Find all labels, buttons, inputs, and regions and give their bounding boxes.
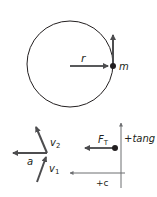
free-body-diagram: FT +tang +c [70, 123, 155, 188]
tang-axis-label: +tang [124, 133, 155, 144]
object-point [112, 145, 118, 151]
mass-label: m [119, 61, 129, 72]
radius-label: r [81, 52, 87, 65]
mass-point [110, 63, 116, 69]
v1-label: v1 [49, 163, 59, 176]
c-axis-label: +c [96, 178, 109, 188]
circular-motion-diagram: r m [27, 21, 129, 107]
tension-force-label: FT [98, 134, 109, 147]
v2-arrow [36, 127, 47, 153]
physics-diagram: r m a v2 v1 FT +tang +c [0, 0, 157, 197]
circular-path [27, 21, 113, 107]
velocity-vector-diagram: a v2 v1 [13, 127, 60, 182]
v1-arrow [37, 157, 46, 182]
v2-label: v2 [50, 137, 60, 150]
acceleration-label: a [27, 156, 33, 167]
